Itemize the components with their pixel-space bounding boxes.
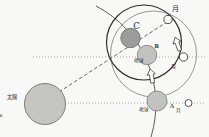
point-c-label: C [133,21,140,31]
diagram-canvas: 太陽 C B 地球 月 月 地球 A 月 [0,0,209,137]
moon-top-label: 月 [172,5,179,13]
orbit-diagram: 太陽 C B 地球 月 月 地球 A 月 [0,0,209,137]
earth-top-label: 地球 [134,57,144,63]
earth-bottom-label: 地球 [139,106,149,112]
moon-bottom-circle [185,100,192,107]
moon-right-circle [179,53,187,61]
body-c-circle [121,28,140,47]
earth-bottom-circle [147,91,167,111]
sun-circle [25,84,66,125]
point-b-label: B [154,43,158,49]
page-edge-mark [0,115,2,117]
moon-right-label: 月 [171,63,176,70]
moon-top-circle [164,15,172,23]
sun-label: 太陽 [7,93,17,101]
point-a-label: A [169,102,175,109]
